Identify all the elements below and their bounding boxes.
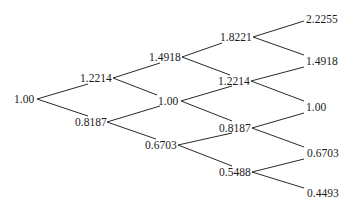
tree-edge-n2_1-n3_1 <box>181 86 232 101</box>
tree-node-n1_1: 0.8187 <box>75 116 107 128</box>
tree-edge-n1_0-n2_1 <box>113 78 157 95</box>
tree-node-n3_3: 0.5488 <box>219 166 251 178</box>
tree-edge-n3_3-n4_4 <box>252 172 304 188</box>
tree-edge-n2_0-n3_1 <box>182 57 230 75</box>
tree-edge-n3_1-n4_1 <box>251 67 304 81</box>
tree-edge-n3_3-n4_3 <box>252 159 304 172</box>
tree-node-n4_4: 0.4493 <box>307 187 339 199</box>
tree-node-n0_0: 1.00 <box>14 93 34 105</box>
tree-edge-n0_0-n1_1 <box>37 99 88 116</box>
tree-node-n2_0: 1.4918 <box>149 51 181 63</box>
tree-edge-n2_0-n3_0 <box>182 43 222 57</box>
tree-node-n2_2: 0.6703 <box>145 139 177 151</box>
tree-edge-n3_1-n4_2 <box>251 81 304 101</box>
tree-edge-n2_2-n3_3 <box>178 145 232 166</box>
tree-edge-n3_2-n4_3 <box>252 128 304 147</box>
tree-edge-n3_0-n4_1 <box>253 37 304 55</box>
binomial-tree-diagram: 1.001.22140.81871.49181.000.67031.82211.… <box>0 0 349 208</box>
tree-node-n3_1: 1.2214 <box>218 75 250 87</box>
tree-node-n3_2: 0.8187 <box>219 122 251 134</box>
tree-node-n1_0: 1.2214 <box>80 72 112 84</box>
tree-node-n4_1: 1.4918 <box>306 55 338 67</box>
tree-node-n4_3: 0.6703 <box>307 147 339 159</box>
tree-node-n2_1: 1.00 <box>158 95 178 107</box>
tree-edge-n0_0-n1_0 <box>37 84 88 99</box>
tree-node-n4_0: 2.2255 <box>306 13 338 25</box>
tree-edge-n1_1-n2_2 <box>107 122 156 139</box>
tree-edge-n2_2-n3_2 <box>178 133 232 145</box>
tree-node-n4_2: 1.00 <box>306 101 326 113</box>
tree-edge-n2_1-n3_2 <box>181 101 232 121</box>
tree-edge-n3_0-n4_0 <box>253 21 304 37</box>
tree-edge-n1_0-n2_0 <box>113 63 160 78</box>
tree-edge-n1_1-n2_1 <box>107 106 160 122</box>
tree-node-n3_0: 1.8221 <box>220 31 252 43</box>
tree-edge-n3_2-n4_2 <box>252 113 304 128</box>
